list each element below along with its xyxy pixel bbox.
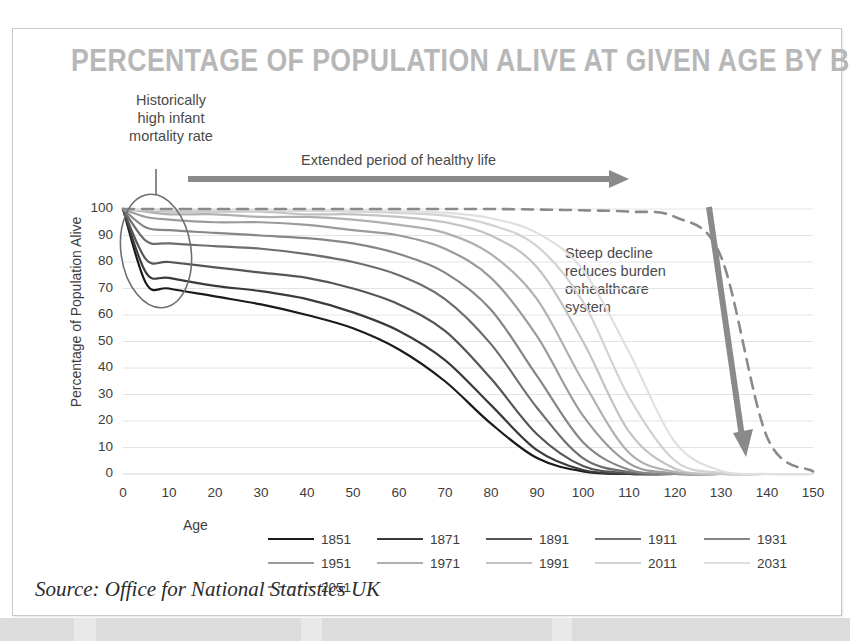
legend-item-1911[interactable]: 1911 xyxy=(595,527,704,551)
legend-swatch-1911 xyxy=(595,538,641,540)
x-tick-label: 0 xyxy=(103,485,143,500)
x-tick-label: 70 xyxy=(425,485,465,500)
x-tick-label: 40 xyxy=(287,485,327,500)
legend-label-1891: 1891 xyxy=(539,532,569,547)
x-tick-label: 80 xyxy=(471,485,511,500)
y-tick-label: 90 xyxy=(61,227,113,242)
y-tick-label: 100 xyxy=(61,200,113,215)
legend-item-1891[interactable]: 1891 xyxy=(486,527,595,551)
y-tick-label: 30 xyxy=(61,386,113,401)
legend-item-2031[interactable]: 2031 xyxy=(704,551,813,575)
chart-card: PERCENTAGE OF POPULATION ALIVE AT GIVEN … xyxy=(12,28,842,616)
legend-item-1931[interactable]: 1931 xyxy=(704,527,813,551)
infant-mortality-ellipse xyxy=(113,190,198,313)
y-tick-label: 20 xyxy=(61,412,113,427)
y-tick-label: 80 xyxy=(61,253,113,268)
x-tick-label: 150 xyxy=(793,485,833,500)
x-tick-label: 140 xyxy=(747,485,787,500)
source-caption: Source: Office for National Statistics U… xyxy=(35,577,380,602)
annotation-infant-mortality: Historically high infant mortality rate xyxy=(101,91,241,145)
y-tick-label: 50 xyxy=(61,333,113,348)
legend-item-1971[interactable]: 1971 xyxy=(377,551,486,575)
x-tick-label: 130 xyxy=(701,485,741,500)
x-tick-label: 120 xyxy=(655,485,695,500)
x-tick-label: 20 xyxy=(195,485,235,500)
x-tick-label: 10 xyxy=(149,485,189,500)
annotation-steep-decline: Steep decline reduces burden onhealthcar… xyxy=(565,244,715,316)
legend-swatch-1931 xyxy=(704,538,750,540)
legend-item-1871[interactable]: 1871 xyxy=(377,527,486,551)
legend-swatch-2031 xyxy=(704,562,750,564)
legend-swatch-1991 xyxy=(486,562,532,564)
y-tick-label: 40 xyxy=(61,359,113,374)
page-title: PERCENTAGE OF POPULATION ALIVE AT GIVEN … xyxy=(71,43,785,79)
legend-item-2011[interactable]: 2011 xyxy=(595,551,704,575)
y-tick-label: 10 xyxy=(61,439,113,454)
legend-label-1871: 1871 xyxy=(430,532,460,547)
x-tick-label: 60 xyxy=(379,485,419,500)
x-tick-label: 30 xyxy=(241,485,281,500)
legend-label-1991: 1991 xyxy=(539,556,569,571)
x-tick-label: 100 xyxy=(563,485,603,500)
legend-label-1931: 1931 xyxy=(757,532,787,547)
legend-label-2011: 2011 xyxy=(648,556,677,571)
legend-label-1971: 1971 xyxy=(430,556,460,571)
legend-swatch-1951 xyxy=(268,562,314,564)
page-bottom-band xyxy=(0,618,850,641)
legend-swatch-1871 xyxy=(377,538,423,540)
legend-item-1991[interactable]: 1991 xyxy=(486,551,595,575)
legend-label-1911: 1911 xyxy=(648,532,677,547)
x-tick-label: 110 xyxy=(609,485,649,500)
x-tick-label: 90 xyxy=(517,485,557,500)
legend-swatch-2011 xyxy=(595,562,641,564)
legend-swatch-1851 xyxy=(268,538,314,540)
extended-period-arrow xyxy=(188,170,629,188)
legend-label-1851: 1851 xyxy=(321,532,351,547)
page-root: PERCENTAGE OF POPULATION ALIVE AT GIVEN … xyxy=(0,0,850,641)
steep-decline-arrow xyxy=(709,207,753,457)
x-axis-label: Age xyxy=(183,517,208,533)
annotation-extended-period: Extended period of healthy life xyxy=(301,151,631,169)
x-tick-label: 50 xyxy=(333,485,373,500)
legend-swatch-1891 xyxy=(486,538,532,540)
legend-item-1851[interactable]: 1851 xyxy=(268,527,377,551)
legend-item-1951[interactable]: 1951 xyxy=(268,551,377,575)
y-tick-label: 0 xyxy=(61,465,113,480)
legend-label-2031: 2031 xyxy=(757,556,787,571)
legend-label-1951: 1951 xyxy=(321,556,351,571)
y-tick-label: 70 xyxy=(61,280,113,295)
y-tick-label: 60 xyxy=(61,306,113,321)
legend-swatch-1971 xyxy=(377,562,423,564)
